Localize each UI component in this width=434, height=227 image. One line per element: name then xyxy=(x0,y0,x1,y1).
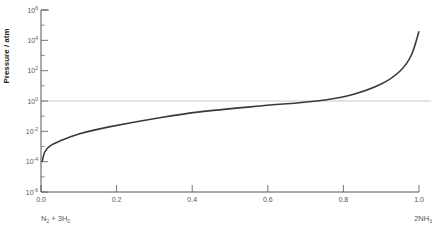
equilibrium-curve xyxy=(42,31,419,162)
svg-text:1.0: 1.0 xyxy=(414,196,424,203)
y-axis-ticks: 10610410210010-210-410-6 xyxy=(26,5,48,196)
svg-text:10-6: 10-6 xyxy=(26,187,38,196)
svg-text:100: 100 xyxy=(27,96,38,105)
svg-text:0.0: 0.0 xyxy=(36,196,46,203)
svg-text:104: 104 xyxy=(27,35,38,44)
svg-text:N2 + 3H2: N2 + 3H2 xyxy=(41,214,70,224)
pressure-chart: Pressure / atm 10610410210010-210-410-6 … xyxy=(0,0,434,227)
svg-text:0.8: 0.8 xyxy=(339,196,349,203)
svg-text:106: 106 xyxy=(27,5,38,14)
svg-text:0.6: 0.6 xyxy=(263,196,273,203)
x-end-labels: N2 + 3H22NH3 xyxy=(41,214,432,224)
x-axis-ticks: 0.00.20.40.60.81.0 xyxy=(36,185,424,203)
svg-text:10-4: 10-4 xyxy=(26,156,38,165)
svg-text:2NH3: 2NH3 xyxy=(414,214,432,224)
svg-text:102: 102 xyxy=(27,65,38,74)
svg-text:10-2: 10-2 xyxy=(26,126,38,135)
y-axis-title: Pressure / atm xyxy=(2,28,11,83)
svg-text:0.4: 0.4 xyxy=(187,196,197,203)
svg-text:0.2: 0.2 xyxy=(112,196,122,203)
